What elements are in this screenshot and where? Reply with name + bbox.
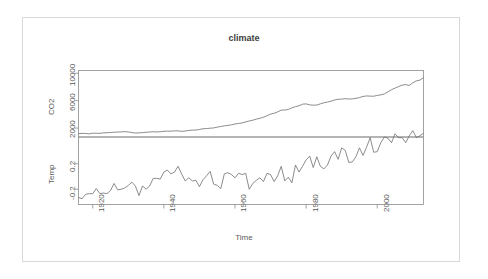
- axis-tick-marks: [75, 73, 378, 208]
- plot-area: [0, 0, 488, 279]
- temp-panel-box: [79, 137, 424, 205]
- co2-panel-box: [79, 71, 424, 138]
- temp-series-line: [79, 131, 424, 199]
- co2-series-line: [79, 78, 424, 134]
- screenshot-canvas: climate Time CO2 Temp 2000600010000 -0.2…: [0, 0, 488, 279]
